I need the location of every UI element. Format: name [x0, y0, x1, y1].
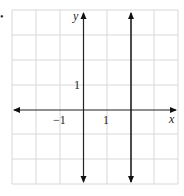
x-tick-label-1: 1 [103, 113, 109, 127]
y-axis-label: y [72, 9, 79, 23]
problem-marker: • [0, 11, 4, 22]
coordinate-plane: • y x −1 1 1 [0, 0, 184, 196]
x-tick-label-neg1: −1 [53, 113, 66, 127]
x-axis-label: x [168, 112, 175, 126]
y-tick-label-1: 1 [74, 78, 80, 92]
grid [12, 10, 178, 184]
